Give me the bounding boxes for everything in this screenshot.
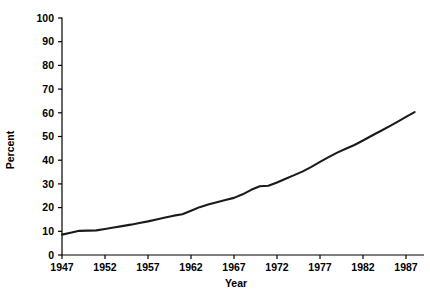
x-axis-title: Year (225, 277, 247, 289)
x-tick-label: 1977 (308, 261, 332, 273)
y-tick-label: 0 (48, 249, 54, 261)
x-tick-label: 1967 (222, 261, 246, 273)
y-tick-label: 80 (42, 59, 54, 71)
y-tick-label: 10 (42, 225, 54, 237)
y-tick-label: 40 (42, 154, 54, 166)
y-tick-label: 70 (42, 83, 54, 95)
y-axis-ticks: 0102030405060708090100 (36, 12, 62, 261)
x-tick-label: 1987 (394, 261, 418, 273)
x-tick-label: 1962 (179, 261, 203, 273)
y-tick-label: 100 (36, 12, 54, 24)
y-tick-label: 60 (42, 107, 54, 119)
chart-canvas: 0102030405060708090100 19471952195719621… (0, 0, 430, 301)
x-tick-label: 1982 (351, 261, 375, 273)
x-tick-label: 1947 (50, 261, 74, 273)
x-axis-ticks: 194719521957196219671972197719821987 (50, 255, 418, 273)
line-chart: 0102030405060708090100 19471952195719621… (0, 0, 430, 301)
y-tick-label: 50 (42, 130, 54, 142)
x-tick-label: 1957 (136, 261, 160, 273)
y-tick-label: 90 (42, 35, 54, 47)
y-axis-title: Percent (4, 130, 16, 169)
x-tick-label: 1972 (265, 261, 289, 273)
x-tick-label: 1952 (93, 261, 117, 273)
y-tick-label: 30 (42, 178, 54, 190)
y-tick-label: 20 (42, 201, 54, 213)
data-series-line (62, 112, 415, 235)
